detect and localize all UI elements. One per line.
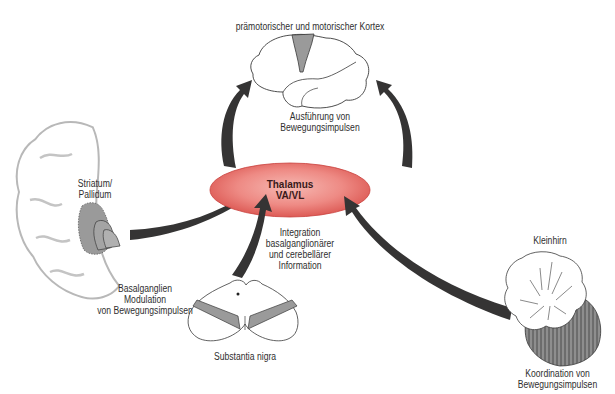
basal-ganglia-caption-line1: Basalganglien xyxy=(89,283,201,294)
thalamus-label: Thalamus xyxy=(250,179,330,190)
arrow-thalamus-to-cortex-left xyxy=(221,80,252,168)
arrow-thalamus-to-cortex-right xyxy=(376,80,412,168)
cortex-caption-line2: Bewegungsimpulsen xyxy=(268,122,371,133)
cerebellum-caption-line1: Koordination von xyxy=(508,368,607,379)
thalamus-caption-line2: basalganglionärer xyxy=(248,238,351,249)
thalamus-caption-line3: und cerebellärer xyxy=(248,249,351,260)
cortex-title: prämotorischer und motorischer Kortex xyxy=(215,21,404,32)
thalamus-caption-line1: Integration xyxy=(248,227,351,238)
striatum-label-line2: Pallidum xyxy=(65,189,125,200)
substantia-nigra-label: Substantia nigra xyxy=(193,351,296,362)
cerebellum-label: Kleinhirn xyxy=(516,235,585,246)
cerebellum-caption-line2: Bewegungsimpulsen xyxy=(508,379,607,390)
thalamus-nuclei-label: VA/VL xyxy=(250,190,330,201)
basal-ganglia-caption-line2: Modulation xyxy=(89,294,201,305)
cortex-caption-line1: Ausführung von xyxy=(268,111,371,122)
thalamus-caption-line4: Information xyxy=(248,260,351,271)
cerebellum-icon xyxy=(505,252,601,366)
arrow-cerebellum-to-thalamus xyxy=(344,196,512,320)
brain-coronal-icon xyxy=(18,123,120,297)
basal-ganglia-caption-line3: von Bewegungsimpulsen xyxy=(81,305,210,316)
striatum-label-line1: Striatum/ xyxy=(65,178,125,189)
brain-lateral-icon xyxy=(251,34,369,108)
